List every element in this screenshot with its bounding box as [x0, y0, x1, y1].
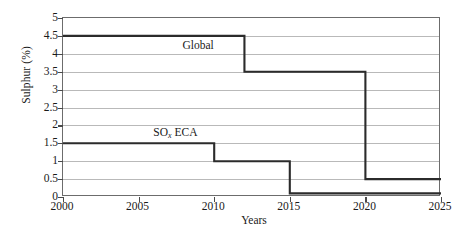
series-annotation: Global	[179, 39, 216, 51]
y-tick-mark	[58, 143, 63, 144]
y-tick-label: 3	[28, 84, 58, 95]
x-axis-label: Years	[0, 214, 470, 226]
y-tick-label: 4.5	[28, 30, 58, 41]
series-layer	[63, 18, 441, 197]
y-tick-label: 3.5	[28, 66, 58, 77]
y-tick-mark	[58, 125, 63, 126]
x-tick-label: 2005	[108, 199, 168, 213]
y-tick-label: 4	[28, 48, 58, 59]
y-tick-label: 2.5	[28, 102, 58, 113]
series-line	[63, 36, 441, 179]
y-tick-mark	[58, 108, 63, 109]
y-tick-mark	[58, 161, 63, 162]
x-axis-label-text: Years	[203, 214, 267, 226]
y-tick-label: 5	[28, 12, 58, 23]
x-tick-label: 2000	[32, 199, 92, 213]
x-tick-label: 2010	[183, 199, 243, 213]
x-axis-tick-labels: 200020052010201520202025	[0, 199, 470, 215]
y-tick-mark	[58, 54, 63, 55]
y-tick-mark	[58, 179, 63, 180]
plot-area	[62, 17, 440, 196]
chart-figure: Sulphur (%) 00.511.522.533.544.55 200020…	[0, 0, 470, 234]
y-tick-label: 2	[28, 119, 58, 130]
y-tick-mark	[58, 72, 63, 73]
y-tick-mark	[58, 90, 63, 91]
y-tick-mark	[58, 18, 63, 19]
series-annotation: SOx ECA	[150, 126, 200, 142]
y-tick-label: 1.5	[28, 137, 58, 148]
x-tick-label: 2025	[410, 199, 470, 213]
y-tick-label: 1	[28, 155, 58, 166]
x-tick-label: 2015	[259, 199, 319, 213]
y-tick-label: 0.5	[28, 173, 58, 184]
y-tick-mark	[58, 36, 63, 37]
series-line	[63, 143, 441, 193]
x-tick-label: 2020	[334, 199, 394, 213]
